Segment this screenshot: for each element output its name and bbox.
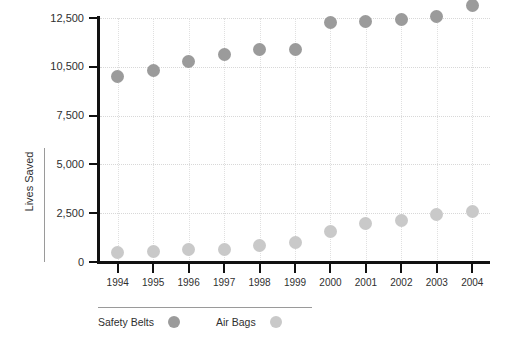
y-axis-tick-label: 7,500 — [24, 110, 84, 121]
data-point — [218, 48, 231, 61]
legend-swatch-air-bags — [270, 316, 282, 328]
x-axis-tick — [400, 264, 402, 273]
data-point — [395, 13, 408, 26]
x-axis-tick — [329, 264, 331, 273]
x-gridline — [437, 18, 438, 262]
data-point — [147, 64, 160, 77]
x-axis-tick — [152, 264, 154, 273]
data-point — [466, 205, 479, 218]
data-point — [147, 245, 160, 258]
y-axis-tick — [89, 66, 98, 68]
data-point — [289, 236, 302, 249]
data-point — [324, 225, 337, 238]
data-point — [289, 43, 302, 56]
legend-rule — [98, 307, 312, 308]
y-axis-tick — [89, 212, 98, 214]
data-point — [111, 246, 124, 259]
y-axis-tick — [89, 17, 98, 19]
x-axis-tick — [294, 264, 296, 273]
y-axis-tick — [89, 163, 98, 165]
y-axis-tick-label: 5,000 — [24, 159, 84, 170]
x-gridline — [118, 18, 119, 262]
chart-legend: Safety Belts Air Bags — [98, 316, 358, 334]
legend-item-safety-belts: Safety Belts — [98, 316, 180, 328]
legend-label-air-bags: Air Bags — [216, 316, 256, 328]
x-axis-tick — [117, 264, 119, 273]
y-axis-spine — [97, 16, 100, 264]
data-point — [395, 214, 408, 227]
x-axis-tick — [471, 264, 473, 273]
x-axis-tick — [259, 264, 261, 273]
lives-saved-scatter-chart: Lives Saved Safety Belts Air Bags 02,500… — [0, 0, 507, 343]
legend-item-air-bags: Air Bags — [216, 316, 282, 328]
data-point — [218, 243, 231, 256]
y-axis-tick-label: 10,500 — [24, 61, 84, 72]
legend-label-safety-belts: Safety Belts — [98, 316, 154, 328]
x-axis-tick — [436, 264, 438, 273]
x-axis-tick — [188, 264, 190, 273]
legend-swatch-safety-belts — [168, 316, 180, 328]
x-axis-tick-label: 2004 — [450, 277, 494, 288]
y-axis-tick-label: 2,500 — [24, 208, 84, 219]
y-axis-tick — [89, 261, 98, 263]
y-axis-title: Lives Saved — [24, 127, 35, 237]
x-gridline — [472, 18, 473, 262]
x-axis-tick — [223, 264, 225, 273]
x-gridline — [153, 18, 154, 262]
y-axis-tick-label: 12,500 — [24, 13, 84, 24]
x-axis-tick — [365, 264, 367, 273]
y-axis-tick-label: 0 — [24, 257, 84, 268]
y-axis-tick — [89, 115, 98, 117]
data-point — [466, 0, 479, 12]
